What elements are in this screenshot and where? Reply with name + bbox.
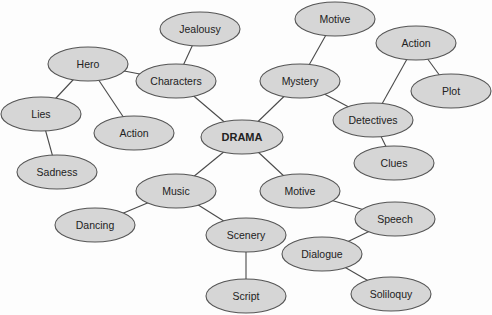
node-label: Dancing <box>76 219 115 231</box>
node-motive-top: Motive <box>295 2 375 36</box>
node-mystery: Mystery <box>260 64 340 98</box>
node-clues: Clues <box>354 146 434 180</box>
node-label: Action <box>119 127 148 139</box>
node-soliloquy: Soliloquy <box>351 277 431 311</box>
node-action-left: Action <box>94 116 174 150</box>
node-characters: Characters <box>136 64 216 98</box>
node-label: Soliloquy <box>370 288 413 300</box>
mind-map-canvas: DRAMACharactersJealousyHeroLiesSadnessAc… <box>0 0 492 315</box>
node-sadness: Sadness <box>17 155 97 189</box>
node-hero: Hero <box>48 47 128 81</box>
node-label: Jealousy <box>179 23 221 35</box>
node-detectives: Detectives <box>333 103 413 137</box>
node-script: Script <box>206 279 286 313</box>
node-action-right: Action <box>376 26 456 60</box>
node-music: Music <box>136 174 216 208</box>
node-scenery: Scenery <box>206 218 286 252</box>
node-label: Speech <box>377 213 413 225</box>
node-label: Dialogue <box>301 248 343 260</box>
node-plot: Plot <box>411 74 491 108</box>
mind-map-diagram: DRAMACharactersJealousyHeroLiesSadnessAc… <box>0 0 492 315</box>
node-drama: DRAMA <box>201 120 283 154</box>
node-label: DRAMA <box>222 131 263 143</box>
node-dancing: Dancing <box>55 208 135 242</box>
node-motive-bottom: Motive <box>260 174 340 208</box>
node-label: Action <box>401 37 430 49</box>
node-label: Hero <box>77 58 100 70</box>
node-jealousy: Jealousy <box>160 12 240 46</box>
node-label: Mystery <box>282 75 320 87</box>
node-label: Lies <box>31 108 50 120</box>
node-label: Sadness <box>37 166 78 178</box>
node-label: Motive <box>285 185 316 197</box>
node-label: Motive <box>320 13 351 25</box>
node-label: Music <box>162 185 189 197</box>
node-speech: Speech <box>355 202 435 236</box>
node-label: Characters <box>150 75 201 87</box>
node-label: Plot <box>442 85 460 97</box>
node-dialogue: Dialogue <box>282 237 362 271</box>
node-label: Scenery <box>227 229 266 241</box>
node-lies: Lies <box>1 97 81 131</box>
node-label: Detectives <box>348 114 397 126</box>
node-label: Script <box>233 290 260 302</box>
node-label: Clues <box>381 157 408 169</box>
